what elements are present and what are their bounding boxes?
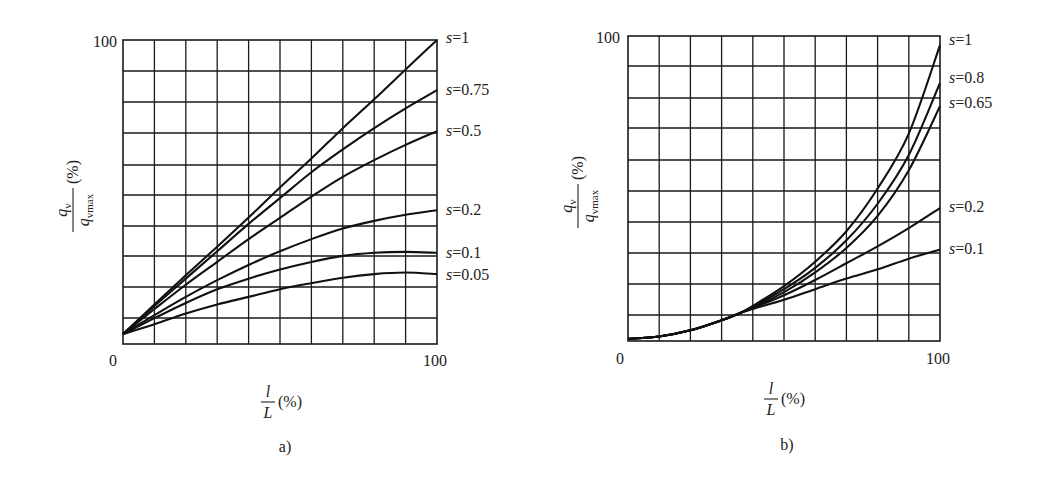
chart-b-caption: b) bbox=[780, 436, 793, 454]
chart-a-y-tick-100: 100 bbox=[93, 33, 117, 50]
series-label: s=0.75 bbox=[446, 81, 489, 98]
chart-a-x-tick-0: 0 bbox=[109, 352, 117, 369]
chart-a-x-tick-100: 100 bbox=[423, 352, 447, 369]
chart-a-x-axis-label: l L (%) bbox=[261, 383, 302, 421]
svg-text:L: L bbox=[766, 401, 776, 418]
chart-b-y-axis-label: qv qvmax (%) bbox=[558, 156, 600, 228]
chart-b-x-tick-100: 100 bbox=[926, 350, 950, 367]
series-label: s=1 bbox=[446, 29, 469, 46]
series-label: s=1 bbox=[949, 31, 972, 48]
svg-text:qv: qv bbox=[53, 203, 73, 217]
svg-text:(%): (%) bbox=[781, 390, 805, 408]
chart-a-series-labels: s=1s=0.75s=0.5s=0.2s=0.1s=0.05 bbox=[446, 29, 489, 283]
series-label: s=0.2 bbox=[446, 201, 481, 218]
series-label: s=0.2 bbox=[949, 198, 984, 215]
chart-b-series-labels: s=1s=0.8s=0.65s=0.2s=0.1 bbox=[949, 31, 992, 256]
chart-a-y-axis-label: qv qvmax (%) bbox=[53, 160, 95, 232]
chart-a: s=1s=0.75s=0.5s=0.2s=0.1s=0.05 100 0 100… bbox=[53, 29, 489, 456]
y-label-unit: (%) bbox=[64, 160, 82, 184]
series-label: s=0.1 bbox=[446, 244, 481, 261]
chart-b-x-axis-label: l L (%) bbox=[764, 380, 805, 418]
series-label: s=0.1 bbox=[949, 240, 984, 257]
series-label: s=0.5 bbox=[446, 122, 481, 139]
y-label-num: q bbox=[53, 209, 71, 217]
svg-text:l: l bbox=[769, 380, 774, 397]
chart-a-caption: a) bbox=[279, 438, 291, 456]
svg-text:l: l bbox=[266, 383, 271, 400]
figure-canvas: s=1s=0.75s=0.5s=0.2s=0.1s=0.05 100 0 100… bbox=[0, 0, 1048, 483]
chart-b-y-tick-100: 100 bbox=[596, 29, 620, 46]
chart-b: s=1s=0.8s=0.65s=0.2s=0.1 100 0 100 qv qv… bbox=[558, 29, 992, 454]
svg-text:qvmax: qvmax bbox=[580, 189, 600, 222]
svg-text:qv: qv bbox=[558, 199, 578, 213]
y-label-den-sub: vmax bbox=[83, 193, 95, 218]
series-label: s=0.05 bbox=[446, 266, 489, 283]
chart-b-x-tick-0: 0 bbox=[616, 350, 624, 367]
svg-text:(%): (%) bbox=[278, 393, 302, 411]
svg-text:(%): (%) bbox=[569, 156, 587, 180]
y-label-num-sub: v bbox=[61, 203, 73, 209]
svg-text:L: L bbox=[263, 404, 273, 421]
series-label: s=0.8 bbox=[949, 69, 984, 86]
series-label: s=0.65 bbox=[949, 94, 992, 111]
svg-text:qvmax: qvmax bbox=[75, 193, 95, 226]
y-label-den: q bbox=[75, 218, 93, 226]
